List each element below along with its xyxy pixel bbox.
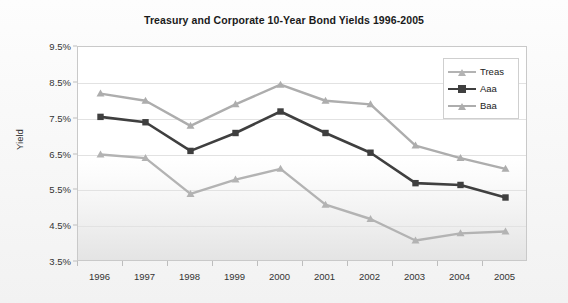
y-axis: 9.5%8.5%7.5%6.5%5.5%4.5%3.5% [0,46,77,261]
x-tick-label: 2005 [477,271,533,282]
y-tick-label: 5.5% [11,184,77,195]
data-point-aaa-2001 [322,130,328,136]
x-tick-mark [302,261,303,266]
data-point-aaa-1999 [232,130,238,136]
legend-label: Aaa [476,83,497,94]
legend-swatch-aaa-icon [448,83,476,95]
chart-title: Treasury and Corporate 10-Year Bond Yiel… [0,14,568,26]
data-point-aaa-1997 [142,119,148,125]
data-point-aaa-2000 [277,108,283,114]
legend-marker-square-icon [458,85,466,93]
x-tick-mark [437,261,438,266]
legend-swatch-baa-icon [448,100,476,112]
chart-legend: TreasAaaBaa [443,58,519,119]
legend-item-aaa[interactable]: Aaa [448,80,513,97]
series-line-treas [101,155,506,241]
x-tick-mark [482,261,483,266]
x-tick-mark [77,261,78,266]
y-tick-label: 7.5% [11,112,77,123]
chart-container: Treasury and Corporate 10-Year Bond Yiel… [0,0,568,303]
y-tick-label: 8.5% [11,76,77,87]
data-point-aaa-1996 [97,114,103,120]
legend-label: Baa [476,100,497,111]
y-tick-label: 4.5% [11,220,77,231]
legend-marker-triangle-icon [458,69,466,76]
x-tick-mark [167,261,168,266]
data-point-aaa-2002 [367,150,373,156]
data-point-baa-2000 [277,81,285,88]
x-tick-mark [392,261,393,266]
x-tick-mark [257,261,258,266]
x-tick-mark [122,261,123,266]
x-tick-mark [347,261,348,266]
y-tick-label: 6.5% [11,148,77,159]
x-tick-mark [212,261,213,266]
legend-item-baa[interactable]: Baa [448,97,513,114]
legend-item-treas[interactable]: Treas [448,63,513,80]
data-point-aaa-1998 [187,148,193,154]
y-tick-label: 9.5% [11,41,77,52]
data-point-aaa-2003 [412,180,418,186]
data-point-aaa-2005 [502,194,508,200]
data-point-aaa-2004 [457,182,463,188]
y-tick-label: 3.5% [11,256,77,267]
legend-swatch-treas-icon [448,66,476,78]
legend-marker-triangle-icon [458,103,466,110]
x-axis: 1996199719981999200020012002200320042005 [77,261,527,291]
legend-label: Treas [476,66,504,77]
